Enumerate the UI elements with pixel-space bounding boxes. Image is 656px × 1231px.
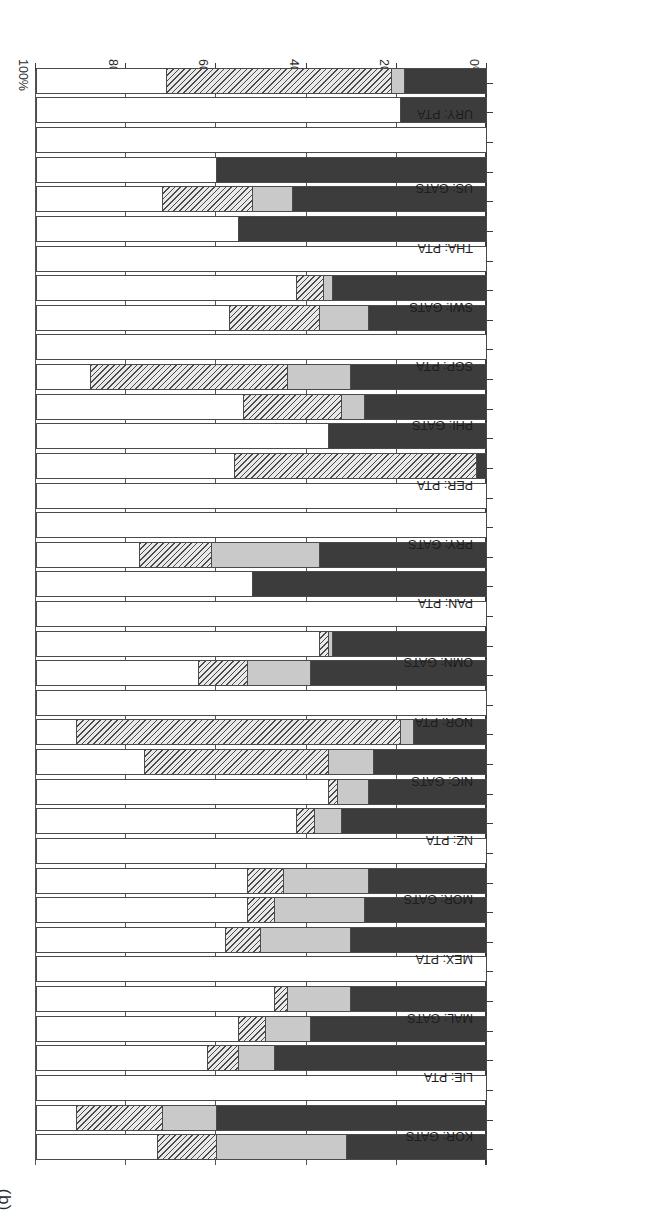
bar-segment-light [212, 543, 320, 567]
stacked-bar[interactable] [36, 216, 487, 242]
bar-row[interactable] [36, 1105, 487, 1131]
bar-segment-white [37, 1106, 77, 1130]
bar-segment-light [284, 869, 369, 893]
category-label: PER: PTA [417, 479, 473, 492]
bar-segment-light [329, 632, 333, 656]
bar-segment-hatch [248, 869, 284, 893]
bar-segment-dark [374, 750, 486, 774]
stacked-bar[interactable] [36, 868, 487, 894]
bar-row[interactable] [36, 216, 487, 242]
bar-segment-light [324, 276, 333, 300]
bar-segment-hatch [167, 69, 392, 93]
stacked-bar[interactable] [36, 334, 487, 360]
category-label: MAL: GATS [407, 1012, 473, 1025]
bar-segment-white [37, 898, 248, 922]
bar-segment-white [37, 869, 248, 893]
bar-row[interactable] [36, 986, 487, 1012]
bar-segment-hatch [140, 543, 212, 567]
category-label: KOR: GATS [406, 1130, 473, 1143]
category-label: MEX: PTA [416, 953, 473, 966]
bar-segment-hatch [239, 1017, 266, 1041]
bar-segment-white [37, 217, 239, 241]
bar-segment-white [37, 661, 199, 685]
bar-segment-light [342, 395, 364, 419]
bar-segment-hatch [145, 750, 329, 774]
bar-segment-white [37, 750, 145, 774]
stacked-bar[interactable] [36, 453, 487, 479]
stacked-bar[interactable] [36, 1045, 487, 1071]
bar-segment-dark [477, 454, 486, 478]
stacked-bar[interactable] [36, 631, 487, 657]
bar-row[interactable] [36, 394, 487, 420]
bar-row[interactable] [36, 868, 487, 894]
bar-row[interactable] [36, 453, 487, 479]
bar-segment-white [37, 839, 486, 863]
bar-row[interactable] [36, 68, 487, 94]
stacked-bar[interactable] [36, 512, 487, 538]
bar-segment-dark [239, 217, 486, 241]
stacked-bar-chart: (b) 0%20%40%60%80%100% KOR: GATSLIE: PTA… [0, 0, 656, 1231]
stacked-bar[interactable] [36, 68, 487, 94]
bar-segment-white [37, 454, 235, 478]
bar-row[interactable] [36, 127, 487, 153]
category-label: SGP: PTA [416, 360, 473, 373]
bar-row[interactable] [36, 808, 487, 834]
stacked-bar[interactable] [36, 1075, 487, 1101]
bar-segment-white [37, 513, 486, 537]
bar-segment-light [248, 661, 311, 685]
bar-segment-hatch [320, 632, 329, 656]
category-label: NOR: PTA [415, 716, 473, 729]
bar-segment-white [37, 395, 244, 419]
bar-row[interactable] [36, 1045, 487, 1071]
bar-segment-white [37, 1135, 158, 1159]
bar-row[interactable] [36, 157, 487, 183]
bar-segment-white [37, 1076, 486, 1100]
bar-segment-hatch [329, 780, 338, 804]
stacked-bar[interactable] [36, 275, 487, 301]
bar-segment-light [266, 1017, 311, 1041]
bar-segment-light [163, 1106, 217, 1130]
bar-segment-light [262, 928, 352, 952]
stacked-bar[interactable] [36, 1105, 487, 1131]
bar-segment-hatch [199, 661, 248, 685]
bar-row[interactable] [36, 749, 487, 775]
bar-segment-light [288, 365, 351, 389]
stacked-bar[interactable] [36, 986, 487, 1012]
category-label: PAN: PTA [418, 597, 473, 610]
bar-segment-hatch [275, 987, 288, 1011]
bar-segment-white [37, 187, 163, 211]
bar-row[interactable] [36, 275, 487, 301]
bar-row[interactable] [36, 334, 487, 360]
stacked-bar[interactable] [36, 394, 487, 420]
bar-row[interactable] [36, 571, 487, 597]
bar-segment-dark [369, 869, 486, 893]
stacked-bar[interactable] [36, 808, 487, 834]
stacked-bar[interactable] [36, 927, 487, 953]
bar-row[interactable] [36, 512, 487, 538]
stacked-bar[interactable] [36, 127, 487, 153]
category-label: NZ: PTA [426, 834, 473, 847]
bar-segment-light [315, 809, 342, 833]
bar-segment-dark [217, 1106, 486, 1130]
bar-row[interactable] [36, 838, 487, 864]
bar-segment-hatch [163, 187, 253, 211]
stacked-bar[interactable] [36, 690, 487, 716]
bar-row[interactable] [36, 1075, 487, 1101]
bar-segment-dark [342, 809, 486, 833]
bar-segment-white [37, 276, 297, 300]
bar-segment-dark [217, 158, 486, 182]
bar-segment-light [401, 721, 414, 745]
stacked-bar[interactable] [36, 157, 487, 183]
bar-segment-dark [351, 928, 486, 952]
bar-row[interactable] [36, 690, 487, 716]
bar-row[interactable] [36, 631, 487, 657]
category-label: MOR: GATS [404, 893, 473, 906]
bar-segment-hatch [77, 1106, 162, 1130]
bar-segment-white [37, 365, 91, 389]
stacked-bar[interactable] [36, 838, 487, 864]
bar-row[interactable] [36, 927, 487, 953]
stacked-bar[interactable] [36, 571, 487, 597]
bar-segment-white [37, 809, 297, 833]
bar-segment-dark [275, 1046, 486, 1070]
stacked-bar[interactable] [36, 749, 487, 775]
